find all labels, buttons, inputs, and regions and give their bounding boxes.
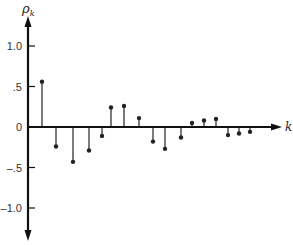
stem-marker [71,160,75,164]
stem-marker [226,133,230,137]
stem-marker [214,117,218,121]
stem-marker [179,135,183,139]
stem-marker [190,121,194,125]
y-axis-label: ρk [21,1,35,18]
stem-marker [237,131,241,135]
stem-marker [40,79,44,83]
stem-marker [122,104,126,108]
x-axis-arrow-right-icon [271,124,282,131]
stem-marker [163,147,167,151]
stem-marker [151,139,155,143]
y-tick-label: 0 [16,121,22,133]
stem-marker [54,144,58,148]
stem-marker [137,116,141,120]
y-tick-label: –.5 [7,162,22,174]
stem-marker [248,130,252,134]
stem-marker [109,105,113,109]
y-tick-label: .5 [13,81,22,93]
stem-marker [100,134,104,138]
y-axis-arrow-down-icon [25,230,32,241]
y-axis-label-subscript: k [30,9,35,18]
y-tick-label: –1.0 [1,202,22,214]
stems [40,79,252,164]
stem-chart: 1.0.50–.5–1.0 k ρk [0,0,293,245]
y-axis-label-main: ρ [21,1,30,16]
y-tick-label: 1.0 [7,40,22,52]
stem-marker [202,118,206,122]
stem-marker [87,148,91,152]
x-axis-label: k [285,120,292,134]
